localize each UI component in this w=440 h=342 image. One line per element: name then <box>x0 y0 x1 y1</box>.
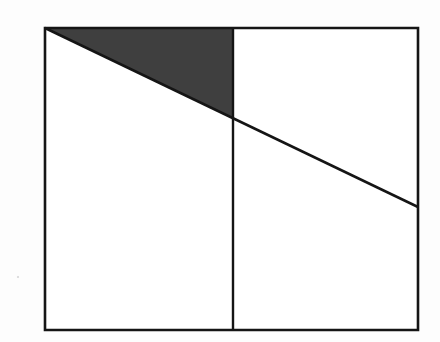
figure-canvas <box>0 0 440 342</box>
geometric-figure <box>0 0 440 342</box>
